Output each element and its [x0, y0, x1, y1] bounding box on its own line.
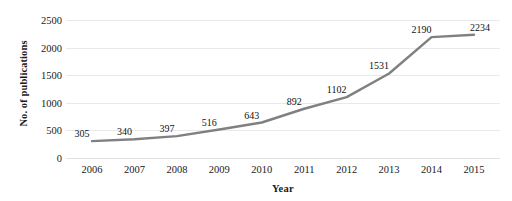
y-tick-label: 2500	[26, 15, 62, 26]
data-label: 1531	[369, 61, 389, 71]
y-tick-label: 2000	[26, 42, 62, 53]
data-label: 1102	[327, 85, 347, 95]
y-tick-label: 0	[26, 153, 62, 164]
plot-area: 3053403975166438921102153121902234	[66, 20, 500, 158]
y-axis-tick-labels: 05001000150020002500	[26, 14, 62, 160]
data-label: 892	[287, 97, 302, 107]
data-label: 305	[75, 129, 90, 139]
data-point-labels: 3053403975166438921102153121902234	[66, 20, 500, 158]
y-tick-label: 1500	[26, 70, 62, 81]
data-label: 397	[159, 124, 174, 134]
x-tick-label: 2009	[209, 164, 230, 176]
x-tick-label: 2007	[124, 164, 145, 176]
data-label: 340	[117, 127, 132, 137]
data-label: 2234	[470, 23, 490, 33]
x-tick-label: 2008	[166, 164, 187, 176]
data-label: 2190	[412, 25, 432, 35]
publications-line-chart: No. of publications 05001000150020002500…	[0, 0, 512, 201]
data-label: 643	[244, 111, 259, 121]
x-tick-label: 2010	[251, 164, 272, 176]
data-label: 516	[202, 118, 217, 128]
gridline	[66, 158, 500, 159]
x-axis-tick-labels: 2006200720082009201020112012201320142015	[66, 164, 500, 180]
x-tick-label: 2011	[294, 164, 315, 176]
x-tick-label: 2012	[336, 164, 357, 176]
x-tick-label: 2013	[379, 164, 400, 176]
x-tick-label: 2015	[464, 164, 485, 176]
y-tick-label: 1000	[26, 97, 62, 108]
x-tick-label: 2006	[82, 164, 103, 176]
x-tick-label: 2014	[421, 164, 442, 176]
y-tick-label: 500	[26, 125, 62, 136]
x-axis-title: Year	[66, 183, 500, 194]
